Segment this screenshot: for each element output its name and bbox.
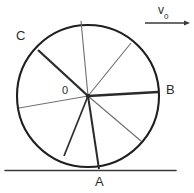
- velocity-arrow-icon: [145, 20, 190, 25]
- label-point-c: C: [16, 29, 26, 42]
- spoke-to-b: [88, 92, 158, 96]
- diagram-canvas: [0, 0, 194, 193]
- spoke-to-a: [88, 96, 99, 169]
- label-velocity: v0: [158, 4, 168, 19]
- spoke-to-upper-right: [88, 43, 131, 96]
- spoke-to-lower-right: [88, 96, 141, 141]
- rolling-wheel-diagram: C B A 0 v0: [0, 0, 194, 193]
- wheel-hub: [86, 94, 90, 98]
- spoke-to-lower-left: [64, 96, 88, 156]
- spoke-to-top: [81, 21, 88, 96]
- label-point-a: A: [95, 175, 104, 188]
- spoke-to-left: [19, 96, 88, 108]
- velocity-subscript: 0: [164, 12, 168, 21]
- label-point-b: B: [166, 83, 175, 96]
- label-center-o: 0: [62, 85, 68, 96]
